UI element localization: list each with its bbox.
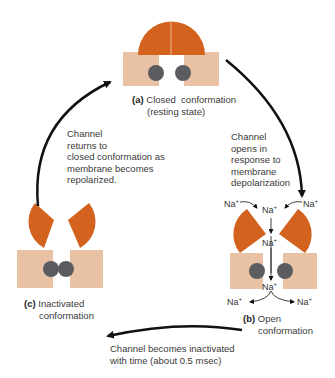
state-letter: (b) [243, 313, 255, 324]
gate-right-inactivated [68, 203, 96, 248]
inactivated-state-subtitle: conformation [39, 310, 94, 322]
inactivated-channel [17, 203, 103, 288]
na-ion-label: Na+ [262, 281, 277, 292]
state-letter: (c) [24, 298, 36, 309]
na-ion-label: Na+ [262, 204, 277, 215]
ion-dot [43, 261, 59, 277]
ion-dot [148, 65, 164, 81]
na-ion-label: Na+ [262, 237, 277, 248]
state-letter: (a) [132, 94, 144, 105]
closed-state-subtitle: (resting state) [147, 106, 205, 118]
state-title: Open [258, 313, 281, 324]
state-title: Inactivated [38, 298, 84, 309]
na-ion-label: Na+ [227, 296, 242, 307]
open-state-subtitle: conformation [258, 325, 313, 337]
state-title: Closed conformation [146, 94, 236, 105]
channel-block-right [70, 250, 103, 288]
arrow-open-to-inactivated [108, 326, 242, 336]
transition-text-repolarized: Channel returns to closed conformation a… [67, 128, 165, 186]
ion-dot [277, 263, 293, 279]
transition-text-inactivation: Channel becomes inactivated with time (a… [110, 343, 235, 366]
closed-channel [123, 21, 219, 86]
na-ion-label: Na+ [224, 198, 239, 209]
transition-text-depolarization: Channel opens in response to membrane de… [231, 131, 290, 189]
ion-dot [58, 261, 74, 277]
inactivated-state-label: (c) Inactivated [24, 298, 84, 310]
gate-right-open [279, 209, 312, 253]
closed-state-label: (a) Closed conformation [132, 94, 236, 106]
na-ion-label: Na+ [303, 198, 318, 209]
ion-dot [249, 263, 265, 279]
na-ion-label: Na+ [297, 296, 312, 307]
ion-dot [175, 65, 191, 81]
gate-left-inactivated [28, 203, 54, 248]
open-state-label: (b) Open [243, 313, 281, 325]
